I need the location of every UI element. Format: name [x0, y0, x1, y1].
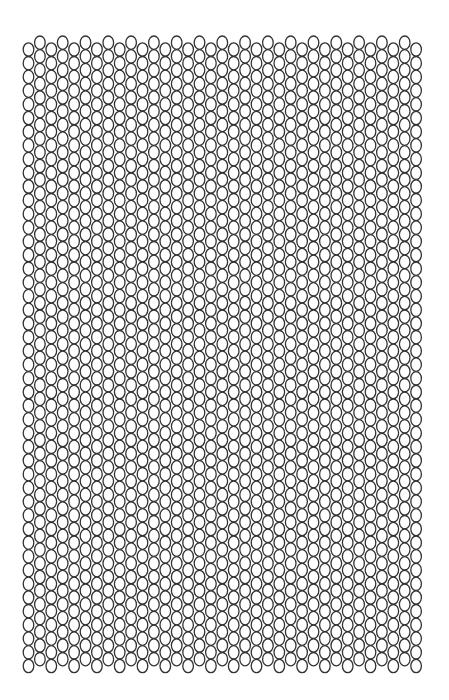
- bead: [69, 139, 80, 152]
- bead: [194, 63, 205, 76]
- bead: [114, 57, 125, 70]
- bead: [285, 77, 296, 90]
- bead: [194, 351, 205, 364]
- bead: [354, 324, 365, 337]
- bead: [320, 194, 331, 207]
- bead: [46, 221, 57, 234]
- bead: [399, 392, 410, 405]
- bead: [354, 598, 365, 611]
- bead: [46, 618, 57, 631]
- bead: [308, 283, 319, 296]
- bead: [103, 200, 114, 213]
- bead: [411, 303, 422, 316]
- bead: [69, 194, 80, 207]
- bead: [354, 529, 365, 542]
- bead: [274, 166, 285, 179]
- bead: [23, 591, 34, 604]
- bead: [297, 43, 308, 56]
- bead: [274, 536, 285, 549]
- bead: [149, 310, 160, 323]
- bead: [365, 522, 376, 535]
- bead: [183, 317, 194, 330]
- bead: [23, 413, 34, 426]
- bead: [160, 180, 171, 193]
- bead: [263, 351, 274, 364]
- bead: [114, 440, 125, 453]
- bead: [411, 98, 422, 111]
- bead: [69, 276, 80, 289]
- bead: [69, 57, 80, 70]
- bead: [80, 159, 91, 172]
- bead: [137, 468, 148, 481]
- bead: [183, 303, 194, 316]
- bead: [399, 242, 410, 255]
- bead: [365, 111, 376, 124]
- bead: [399, 625, 410, 638]
- bead: [399, 132, 410, 145]
- bead: [251, 344, 262, 357]
- bead: [217, 337, 228, 350]
- bead: [149, 337, 160, 350]
- bead: [92, 454, 103, 467]
- bead: [183, 125, 194, 138]
- bead: [320, 468, 331, 481]
- bead: [194, 474, 205, 487]
- bead: [240, 447, 251, 460]
- bead: [251, 591, 262, 604]
- bead: [217, 214, 228, 227]
- bead: [206, 70, 217, 83]
- bead: [137, 646, 148, 659]
- bead: [137, 618, 148, 631]
- bead: [251, 454, 262, 467]
- bead: [331, 433, 342, 446]
- bead: [331, 365, 342, 378]
- bead: [411, 632, 422, 645]
- bead: [183, 399, 194, 412]
- bead: [137, 70, 148, 83]
- bead: [194, 91, 205, 104]
- bead: [160, 577, 171, 590]
- bead: [320, 454, 331, 467]
- bead: [57, 639, 68, 652]
- bead: [103, 379, 114, 392]
- bead: [342, 372, 353, 385]
- bead: [365, 139, 376, 152]
- bead: [80, 653, 91, 666]
- bead: [308, 269, 319, 282]
- bead: [342, 221, 353, 234]
- bead: [240, 200, 251, 213]
- bead: [126, 365, 137, 378]
- bead: [80, 187, 91, 200]
- bead: [137, 276, 148, 289]
- bead: [69, 111, 80, 124]
- bead: [228, 166, 239, 179]
- bead: [206, 632, 217, 645]
- bead: [149, 36, 160, 49]
- bead: [217, 474, 228, 487]
- bead: [251, 646, 262, 659]
- bead: [160, 481, 171, 494]
- bead: [251, 440, 262, 453]
- bead: [297, 632, 308, 645]
- bead: [354, 159, 365, 172]
- bead: [114, 152, 125, 165]
- bead: [240, 420, 251, 433]
- bead: [388, 618, 399, 631]
- bead: [194, 187, 205, 200]
- bead: [354, 283, 365, 296]
- bead: [320, 509, 331, 522]
- bead: [399, 269, 410, 282]
- bead: [285, 598, 296, 611]
- bead: [183, 70, 194, 83]
- bead: [160, 221, 171, 234]
- bead: [331, 502, 342, 515]
- bead: [285, 570, 296, 583]
- bead: [171, 296, 182, 309]
- bead: [399, 283, 410, 296]
- bead: [388, 481, 399, 494]
- bead: [103, 653, 114, 666]
- bead: [263, 63, 274, 76]
- bead: [126, 447, 137, 460]
- bead: [354, 639, 365, 652]
- bead: [137, 235, 148, 248]
